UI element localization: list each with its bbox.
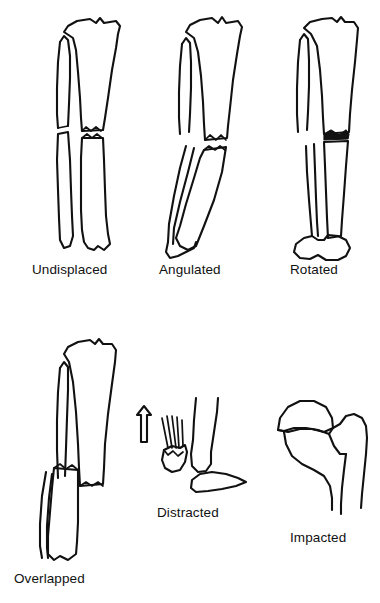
ankle-rotated <box>294 235 350 260</box>
fibula-medial-rotated <box>297 40 300 132</box>
fibula-medial-overlapped <box>57 368 60 478</box>
undisplaced-drawing <box>46 14 138 264</box>
fibula-distal-lateral-overlapped <box>40 472 46 558</box>
tibia-distal-overlapped <box>48 468 78 560</box>
fibula-fracture-undisplaced <box>58 126 68 128</box>
femur-distracted <box>191 398 218 472</box>
fibula-lateral-angulated <box>182 38 191 132</box>
tibia-proximal-undisplaced <box>64 18 120 131</box>
caption-impacted: Impacted <box>290 530 346 546</box>
tendon-fiber-3 <box>172 416 176 448</box>
tibia-distal-undisplaced <box>81 138 110 250</box>
tibia-distracted <box>191 472 246 492</box>
rotated-drawing <box>284 14 376 264</box>
fibula-medial-undisplaced <box>57 42 60 128</box>
angulated-drawing <box>160 14 260 264</box>
caption-distracted: Distracted <box>157 505 219 521</box>
ankle-angulated <box>166 242 196 258</box>
tendon-fiber-1 <box>162 418 168 448</box>
tibia-proximal-angulated <box>186 17 242 140</box>
figure-impacted <box>272 394 376 520</box>
fibula-distal-medial-rotated <box>306 146 312 236</box>
impacted-drawing <box>272 394 376 520</box>
fibula-lateral-overlapped <box>60 362 68 476</box>
femoral-shaft-medial-impacted <box>341 454 346 514</box>
distracted-drawing <box>132 396 252 504</box>
tibia-distal-angulated <box>176 147 226 250</box>
tibia-proximal-rotated <box>304 17 358 134</box>
fracture-line-rotated <box>324 130 349 140</box>
fibula-distal-undisplaced <box>57 132 73 248</box>
fibula-medial-angulated <box>179 44 182 134</box>
up-arrow-icon <box>137 406 151 442</box>
femoral-neck-impacted <box>284 432 332 510</box>
fracture-illustration-sheet: Undisplaced Angulated <box>0 0 380 603</box>
tibia-proximal-overlapped <box>64 339 116 486</box>
tendon-fiber-4 <box>177 417 179 448</box>
caption-overlapped: Overlapped <box>14 571 85 587</box>
figure-angulated <box>160 14 260 264</box>
figure-distracted <box>132 396 252 504</box>
fragment-jagged-edge-distracted <box>164 450 183 456</box>
tendon-fiber-5 <box>182 420 183 446</box>
fibula-distal-lateral-rotated <box>314 144 318 236</box>
fibula-distal-medial-angulated <box>173 148 194 244</box>
caption-angulated: Angulated <box>159 262 221 278</box>
avulsed-fragment-distracted <box>162 445 187 472</box>
caption-rotated: Rotated <box>290 262 338 278</box>
overlapped-drawing <box>34 336 126 566</box>
fibula-distal-lateral-angulated <box>168 146 186 242</box>
figure-rotated <box>284 14 376 264</box>
intertrochanteric-line-impacted <box>329 434 346 454</box>
greater-trochanter-impacted <box>333 414 367 508</box>
figure-undisplaced <box>46 14 138 264</box>
caption-undisplaced: Undisplaced <box>32 262 107 278</box>
fibula-lateral-rotated <box>300 34 309 130</box>
tibia-distal-rotated <box>324 141 348 238</box>
fibula-lateral-undisplaced <box>60 36 70 126</box>
figure-overlapped <box>34 336 126 566</box>
